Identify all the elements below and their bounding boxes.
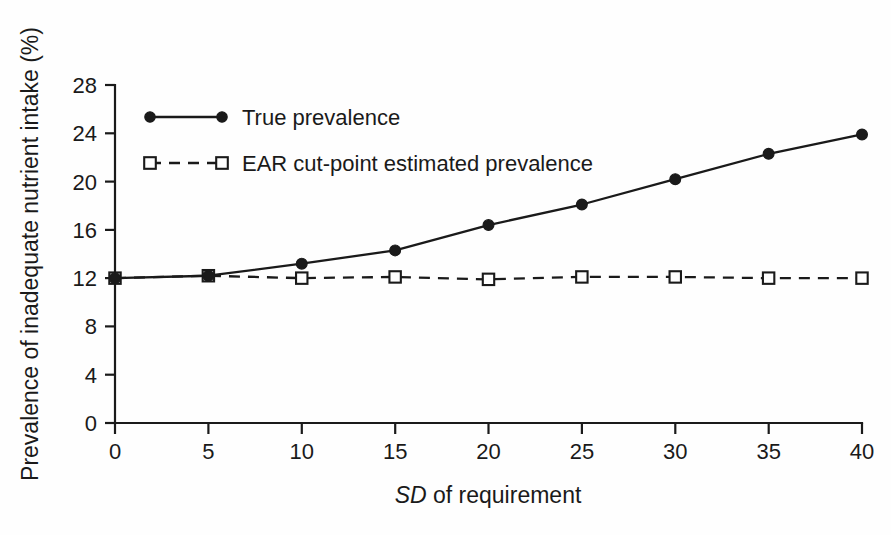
data-point-marker: [763, 272, 774, 283]
legend-marker-filled-circle-right: [217, 112, 227, 122]
data-point-marker: [389, 271, 400, 282]
x-tick-label-15: 15: [383, 439, 407, 464]
data-point-marker: [670, 271, 681, 282]
x-tick-label-20: 20: [476, 439, 500, 464]
legend-marker-open-square-right: [216, 157, 228, 169]
data-point-marker: [483, 274, 494, 285]
data-point-marker: [576, 271, 587, 282]
y-tick-label-24: 24: [73, 121, 97, 146]
chart-figure: 0 4 8 12 16 20 24 28 0 5 10 15: [0, 0, 891, 535]
y-tick-label-20: 20: [73, 170, 97, 195]
data-point-marker: [763, 148, 774, 159]
line-chart-canvas: 0 4 8 12 16 20 24 28 0 5 10 15: [0, 0, 891, 535]
data-point-marker: [856, 272, 867, 283]
data-point-marker: [670, 174, 681, 185]
data-point-marker: [296, 258, 307, 269]
y-tick-label-8: 8: [85, 314, 97, 339]
x-tick-label-30: 30: [663, 439, 687, 464]
data-point-marker: [857, 129, 868, 140]
y-tick-label-4: 4: [85, 363, 97, 388]
x-axis-title-rest: of requirement: [427, 482, 582, 508]
y-axis-title: Prevalence of inadequate nutrient intake…: [17, 27, 43, 481]
x-tick-label-35: 35: [756, 439, 780, 464]
series-ear-markers: [109, 270, 867, 285]
legend-item-ear-cutpoint[interactable]: EAR cut-point estimated prevalence: [144, 151, 593, 176]
legend-item-true-prevalence[interactable]: True prevalence: [145, 105, 400, 130]
y-tick-label-0: 0: [85, 411, 97, 436]
y-tick-label-28: 28: [73, 73, 97, 98]
legend-marker-filled-circle-left: [145, 112, 155, 122]
y-tick-label-12: 12: [73, 266, 97, 291]
y-axis-ticks: 0 4 8 12 16 20 24 28: [73, 73, 115, 436]
x-tick-label-0: 0: [109, 439, 121, 464]
data-point-marker: [390, 245, 401, 256]
x-tick-label-10: 10: [290, 439, 314, 464]
x-tick-label-40: 40: [850, 439, 874, 464]
chart-legend: True prevalence EAR cut-point estimated …: [144, 105, 593, 176]
data-point-marker: [576, 199, 587, 210]
legend-marker-open-square-left: [144, 157, 156, 169]
x-axis-title: SD of requirement: [395, 482, 582, 508]
legend-label-ear-cutpoint: EAR cut-point estimated prevalence: [242, 151, 593, 176]
data-point-marker: [483, 220, 494, 231]
legend-label-true-prevalence: True prevalence: [242, 105, 400, 130]
x-tick-label-25: 25: [570, 439, 594, 464]
axes-group: [115, 85, 862, 423]
series-ear-cutpoint: [109, 270, 867, 285]
x-axis-ticks: 0 5 10 15 20 25 30 35 40: [109, 423, 874, 464]
data-point-marker: [296, 272, 307, 283]
data-point-marker: [110, 273, 121, 284]
y-tick-label-16: 16: [73, 218, 97, 243]
x-tick-label-5: 5: [202, 439, 214, 464]
x-axis-title-emphasis: SD: [395, 482, 427, 508]
data-point-marker: [203, 270, 214, 281]
